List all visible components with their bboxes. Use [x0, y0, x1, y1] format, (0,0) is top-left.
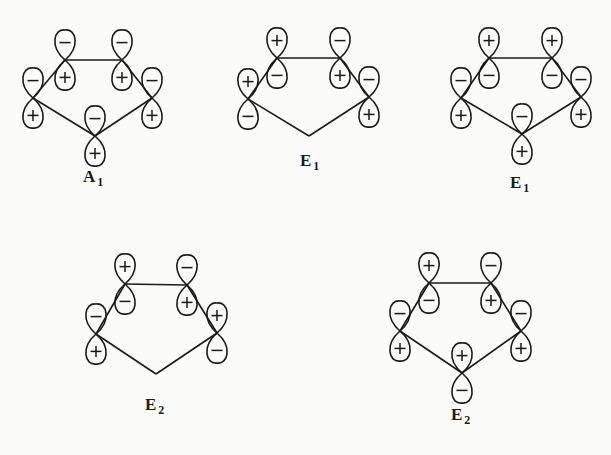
bond-right-bottom — [462, 331, 521, 373]
plus-sign-icon — [272, 35, 283, 46]
upper-lobe — [330, 28, 350, 58]
orbital-diagram-e1-b: E1 — [451, 28, 591, 195]
bond-left-top-left — [400, 283, 429, 331]
symmetry-label: E1 — [510, 173, 529, 195]
lower-lobe — [542, 58, 562, 88]
upper-lobe — [142, 68, 162, 98]
plus-sign-icon — [243, 76, 254, 87]
bond-top-right-right — [187, 285, 217, 333]
plus-sign-icon — [484, 35, 495, 46]
p-orbital-right — [207, 303, 227, 363]
bond-left-top-left — [96, 284, 125, 334]
lower-lobe — [452, 373, 472, 403]
lower-lobe — [115, 284, 135, 314]
bond-bottom-left — [461, 98, 522, 134]
plus-sign-icon — [117, 72, 128, 83]
plus-sign-icon — [395, 343, 406, 354]
p-orbital-left — [23, 68, 43, 128]
p-orbital-right — [142, 68, 162, 128]
plus-sign-icon — [335, 70, 346, 81]
bond-bottom-left — [248, 99, 309, 136]
upper-lobe — [511, 301, 531, 331]
symmetry-label: E1 — [300, 151, 319, 173]
lower-lobe — [419, 283, 439, 313]
plus-sign-icon — [60, 72, 71, 83]
bond-left-top-left — [461, 58, 489, 98]
plus-sign-icon — [28, 110, 39, 121]
orbital-diagram-a1: A1 — [23, 30, 162, 189]
bond-bottom-left — [33, 98, 95, 136]
plus-sign-icon — [486, 295, 497, 306]
bond-right-bottom — [156, 333, 217, 374]
bond-top-left-top-right — [125, 284, 187, 285]
orbital-diagram-e1-a: E1 — [238, 28, 379, 173]
upper-lobe — [86, 304, 106, 334]
upper-lobe — [23, 68, 43, 98]
p-orbital-bottom — [452, 343, 472, 403]
plus-sign-icon — [457, 350, 468, 361]
upper-lobe — [55, 30, 75, 60]
bond-left-top-left — [248, 58, 277, 99]
p-orbital-bottom — [85, 106, 105, 166]
upper-lobe — [177, 255, 197, 285]
p-orbital-bottom — [512, 104, 532, 164]
plus-sign-icon — [576, 109, 587, 120]
bond-right-bottom — [95, 98, 152, 136]
upper-lobe — [481, 253, 501, 283]
p-orbital-left — [238, 69, 258, 129]
plus-sign-icon — [212, 310, 223, 321]
orbital-diagram-e2-a: E2 — [86, 254, 227, 417]
symmetry-label: E2 — [451, 405, 470, 427]
plus-sign-icon — [424, 260, 435, 271]
p-orbital-left — [390, 301, 410, 361]
bond-right-bottom — [309, 97, 369, 136]
upper-lobe — [359, 67, 379, 97]
plus-sign-icon — [456, 110, 467, 121]
lower-lobe — [479, 58, 499, 88]
orbital-diagram-e2-b: E2 — [390, 253, 531, 427]
p-orbital-right — [511, 301, 531, 361]
p-orbital-left — [86, 304, 106, 364]
upper-lobe — [112, 30, 132, 60]
upper-lobe — [571, 67, 591, 97]
symmetry-label: A1 — [83, 167, 103, 189]
plus-sign-icon — [516, 343, 527, 354]
bond-top-right-right — [491, 283, 521, 331]
bond-bottom-left — [96, 334, 156, 374]
mo-diagram-figure: A1 E1 E1 E2 E2 — [0, 0, 611, 455]
lower-lobe — [267, 58, 287, 88]
plus-sign-icon — [120, 261, 131, 272]
plus-sign-icon — [90, 148, 101, 159]
plus-sign-icon — [364, 109, 375, 120]
plus-sign-icon — [147, 110, 158, 121]
plus-sign-icon — [517, 146, 528, 157]
bond-top-right-right — [340, 58, 369, 97]
symmetry-label: E2 — [145, 395, 164, 417]
plus-sign-icon — [182, 297, 193, 308]
p-orbital-right — [571, 67, 591, 127]
bond-right-bottom — [522, 97, 581, 134]
upper-lobe — [390, 301, 410, 331]
upper-lobe — [451, 68, 471, 98]
bond-top-right-right — [552, 58, 581, 97]
p-orbital-right — [359, 67, 379, 127]
plus-sign-icon — [547, 35, 558, 46]
p-orbital-left — [451, 68, 471, 128]
plus-sign-icon — [91, 346, 102, 357]
